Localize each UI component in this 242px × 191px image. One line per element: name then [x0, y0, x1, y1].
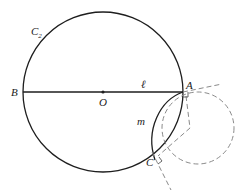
right-angle-mark-c [158, 157, 162, 164]
label-o: O [99, 96, 107, 108]
label-l: ℓ [141, 78, 146, 90]
point-o [101, 90, 104, 93]
label-b: B [11, 86, 18, 98]
label-c: C [146, 156, 154, 168]
geometry-diagram: C2 B O ℓ A m C [0, 0, 242, 191]
dashed-circle [162, 92, 234, 164]
label-c2: C2 [31, 25, 42, 40]
arc-m [152, 92, 183, 160]
label-m: m [137, 115, 145, 127]
dashed-radii [158, 96, 190, 156]
label-a: A [185, 79, 193, 91]
